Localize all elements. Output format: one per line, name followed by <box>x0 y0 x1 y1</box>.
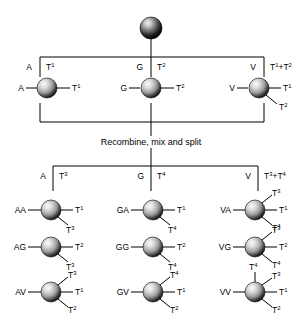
split-mix-diagram: A T1 G T2 V T1+T2 A T1 G T2 V <box>0 0 304 327</box>
VG-tag-down: T4 <box>272 260 281 270</box>
AA-tag-2: T3 <box>66 225 74 235</box>
GG-branch-down <box>160 254 170 262</box>
split2-tag-V: T3+T4 <box>264 171 287 181</box>
VV-tag-up2: T4 <box>249 262 258 272</box>
VV-tag-down: T2 <box>272 305 280 315</box>
row1-V-tag-2: T2 <box>279 102 287 112</box>
product-GV-group: GV T4 T1 T2 <box>117 270 186 315</box>
AG-branch-down <box>58 254 68 262</box>
VA-branch-down <box>262 217 272 225</box>
split2-residue-V: V <box>245 171 251 181</box>
product-AV-group: AV T3 T1 T2 <box>15 270 83 315</box>
AG-tag-1: T2 <box>75 242 83 252</box>
row1-V-label: V <box>229 83 235 93</box>
GV-branch-down <box>160 299 170 307</box>
split2-bracket <box>53 166 258 191</box>
split1-residue-V: V <box>250 62 256 72</box>
VG-tag-up: T3 <box>272 225 280 235</box>
VA-label: VA <box>220 205 231 215</box>
GG-label: GG <box>116 242 129 252</box>
split2-tag-G: T4 <box>157 171 166 181</box>
GV-branch-up <box>160 277 170 285</box>
VV-label: VV <box>220 287 232 297</box>
split1-tag-G: T2 <box>157 62 165 72</box>
VV-branch-down <box>262 299 272 307</box>
row1-bead-V-group: V T1 T2 <box>229 78 291 112</box>
split2-labels: A T3 G T4 V T3+T4 <box>40 171 286 181</box>
VG-label: VG <box>219 242 231 252</box>
split2-residue-A: A <box>40 171 46 181</box>
product-AG-group: AG T2 T3 <box>14 237 84 272</box>
split1-tag-A: T1 <box>46 62 54 72</box>
figure-canvas: A T1 G T2 V T1+T2 A T1 G T2 V <box>0 0 304 327</box>
AV-tag-right: T1 <box>75 287 83 297</box>
start-bead <box>140 17 162 39</box>
VA-branch-up <box>262 195 272 203</box>
row1-V-branch-down <box>266 95 277 104</box>
split1-residue-A: A <box>26 62 32 72</box>
row1-bead-A-group: A T1 <box>18 78 80 98</box>
AA-tag-1: T1 <box>75 205 83 215</box>
row1-G-bead <box>141 78 161 98</box>
VV-branch-up <box>262 278 272 285</box>
GG-tag-1: T2 <box>177 242 185 252</box>
row1-A-label: A <box>18 83 24 93</box>
GV-label: GV <box>117 287 130 297</box>
GV-tag-up: T4 <box>170 270 179 280</box>
split2-tag-A: T3 <box>59 171 67 181</box>
row1-G-tag-1: T2 <box>176 83 184 93</box>
row1-G-label: G <box>120 83 127 93</box>
VV-tag-right: T1 <box>279 287 287 297</box>
GA-tag-1: T1 <box>177 205 185 215</box>
recombine-caption: Recombine, mix and split <box>101 137 202 147</box>
GA-branch-down <box>160 217 170 225</box>
split1-labels: A T1 G T2 V T1+T2 <box>26 62 292 72</box>
AV-branch-down <box>58 299 68 307</box>
GV-tag-down: T2 <box>170 305 178 315</box>
AV-branch-up <box>58 277 68 285</box>
start-bead-group <box>140 17 162 57</box>
AG-label: AG <box>14 242 26 252</box>
GV-tag-right: T1 <box>177 287 185 297</box>
VA-tag-right: T1 <box>279 205 287 215</box>
VV-tag-up: T3 <box>272 271 280 281</box>
GA-label: GA <box>117 205 130 215</box>
AA-label: AA <box>15 205 27 215</box>
merge-bracket <box>40 103 264 166</box>
GA-tag-2: T4 <box>168 225 177 235</box>
row1-V-tag-1: T1 <box>283 83 291 93</box>
VG-branch-down <box>262 254 272 262</box>
AV-tag-up: T3 <box>68 270 76 280</box>
split1-tag-V: T1+T2 <box>270 62 292 72</box>
product-VV-group: VV T4 T3 T1 T2 <box>220 262 288 315</box>
row1-A-tag-1: T1 <box>72 83 80 93</box>
row1-bead-G-group: G T2 <box>120 78 184 98</box>
product-AA-group: AA T1 T3 <box>15 200 84 235</box>
AV-tag-down: T2 <box>68 305 76 315</box>
AV-label: AV <box>15 287 26 297</box>
AA-branch-down <box>58 217 68 225</box>
row1-A-bead <box>37 78 57 98</box>
VG-branch-up <box>262 232 272 240</box>
product-GG-group: GG T2 T4 <box>116 237 186 272</box>
product-GA-group: GA T1 T4 <box>117 200 186 235</box>
split2-residue-G: G <box>137 171 144 181</box>
VG-tag-right: T2 <box>279 242 287 252</box>
split1-bracket <box>40 57 264 77</box>
split1-residue-G: G <box>136 62 143 72</box>
VA-tag-up: T3 <box>272 188 280 198</box>
